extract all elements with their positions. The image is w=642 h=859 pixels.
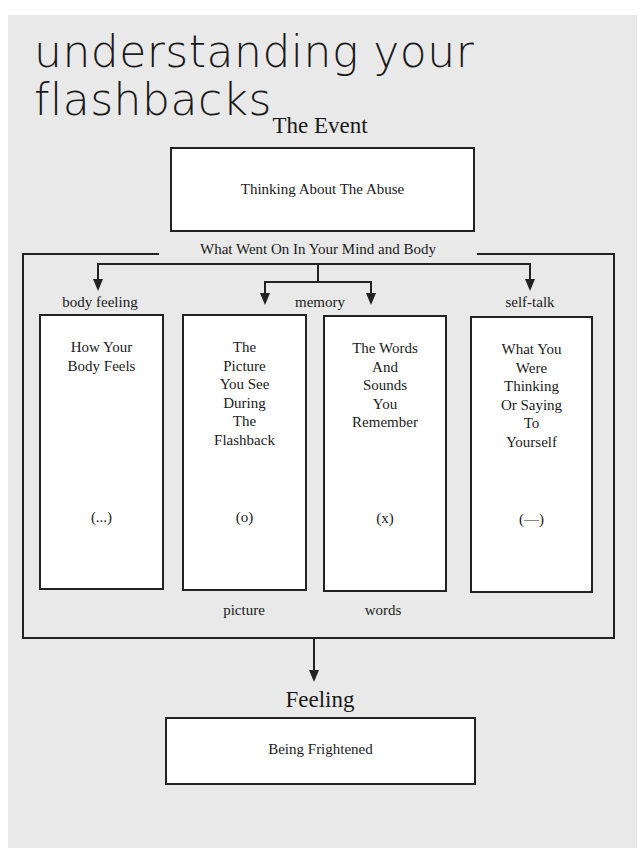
self-talk-box-text: What You Were Thinking Or Saying To Your… [472, 340, 591, 451]
memory-stem [317, 263, 319, 281]
picture-symbol: (o) [184, 509, 305, 526]
category-self-talk: self-talk [470, 294, 590, 311]
arrow-down-icon [525, 279, 535, 291]
arrow-down-icon [309, 670, 319, 682]
picture-box: The Picture You See During The Flashback… [182, 314, 307, 591]
words-box-text: The Words And Sounds You Remember [325, 339, 445, 432]
arrow-feeling-stem [313, 638, 315, 672]
feeling-heading: Feeling [220, 687, 420, 713]
words-symbol: (x) [325, 510, 445, 527]
arrow-down-icon [93, 279, 103, 291]
frame-top-right [477, 253, 615, 255]
picture-box-text: The Picture You See During The Flashback [184, 338, 305, 449]
frame-top-left [22, 253, 159, 255]
distribution-line [97, 263, 531, 265]
memory-branch-line [264, 281, 372, 283]
frame-bottom [22, 637, 615, 639]
arrow-down-icon [260, 293, 270, 305]
process-label: What Went On In Your Mind and Body [160, 241, 476, 258]
category-body-feeling: body feeling [40, 294, 160, 311]
category-memory: memory [270, 294, 370, 311]
sub-label-picture: picture [194, 602, 294, 619]
page-title-line-1: understanding your [34, 30, 474, 74]
frame-right [613, 253, 615, 639]
body-feeling-box: How Your Body Feels (...) [39, 314, 164, 590]
self-talk-box: What You Were Thinking Or Saying To Your… [470, 316, 593, 593]
frame-left [22, 253, 24, 639]
words-box: The Words And Sounds You Remember (x) [323, 315, 447, 592]
sub-label-words: words [338, 602, 428, 619]
body-feeling-box-text: How Your Body Feels [41, 338, 162, 375]
self-talk-symbol: (—) [472, 511, 591, 528]
feeling-box-text: Being Frightened [167, 741, 474, 758]
feeling-box: Being Frightened [165, 717, 476, 785]
event-heading: The Event [220, 113, 420, 139]
event-box: Thinking About The Abuse [170, 147, 475, 232]
body-feeling-symbol: (...) [41, 509, 162, 526]
event-box-text: Thinking About The Abuse [172, 181, 473, 198]
